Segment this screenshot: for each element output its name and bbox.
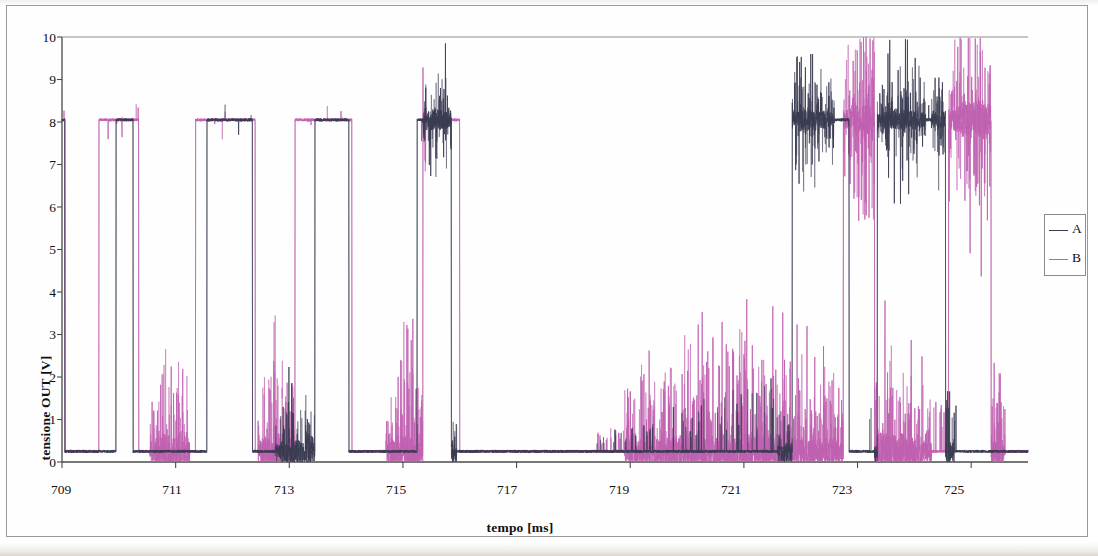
series-line-a bbox=[62, 39, 1028, 462]
legend-label-b: B bbox=[1072, 250, 1081, 266]
plot-area bbox=[0, 0, 1098, 556]
chart-legend: A B bbox=[1044, 214, 1086, 276]
signal-chart: tensione OUT [V] tempo [ms] 10 9 8 7 6 5… bbox=[0, 0, 1098, 556]
legend-swatch-a bbox=[1049, 230, 1068, 231]
legend-entry-a: A bbox=[1049, 222, 1085, 240]
chart-page: tensione OUT [V] tempo [ms] 10 9 8 7 6 5… bbox=[0, 0, 1098, 556]
legend-entry-b: B bbox=[1049, 251, 1085, 269]
legend-label-a: A bbox=[1072, 221, 1082, 237]
legend-swatch-b bbox=[1049, 259, 1068, 260]
